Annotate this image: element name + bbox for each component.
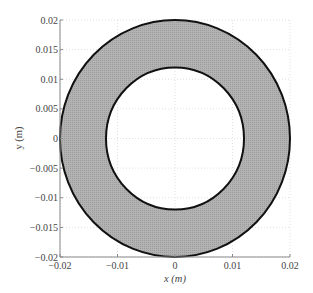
y-tick-label: 0.015 — [36, 44, 59, 55]
y-tick-label: −0.01 — [35, 192, 58, 203]
x-tick-label: 0 — [173, 260, 178, 271]
x-tick-label: 0.02 — [281, 260, 299, 271]
y-tick-label: −0.005 — [30, 163, 58, 174]
y-tick-label: 0.01 — [41, 74, 59, 85]
y-tick-label: 0.005 — [36, 103, 59, 114]
x-axis-label: x (m) — [163, 273, 186, 285]
y-tick-label: 0.02 — [41, 15, 59, 26]
chart: −0.02−0.0100.010.02 −0.02−0.015−0.01−0.0… — [0, 0, 313, 293]
x-tick-label: 0.01 — [224, 260, 242, 271]
y-tick-labels: −0.02−0.015−0.01−0.00500.0050.010.0150.0… — [30, 15, 58, 263]
y-tick-label: −0.015 — [30, 222, 58, 233]
y-tick-label: −0.02 — [35, 252, 58, 263]
y-axis-label: y (m) — [13, 126, 25, 150]
x-tick-label: −0.01 — [106, 260, 129, 271]
x-tick-labels: −0.02−0.0100.010.02 — [48, 260, 298, 271]
y-tick-label: 0 — [53, 133, 58, 144]
